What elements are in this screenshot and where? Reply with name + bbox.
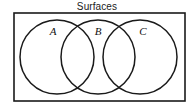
set-label-c: C (139, 25, 147, 37)
venn-diagram-figure: Surfaces A B C (0, 0, 194, 108)
set-label-a: A (49, 25, 57, 37)
venn-diagram-canvas: A B C (0, 0, 194, 108)
set-label-b: B (95, 25, 102, 37)
